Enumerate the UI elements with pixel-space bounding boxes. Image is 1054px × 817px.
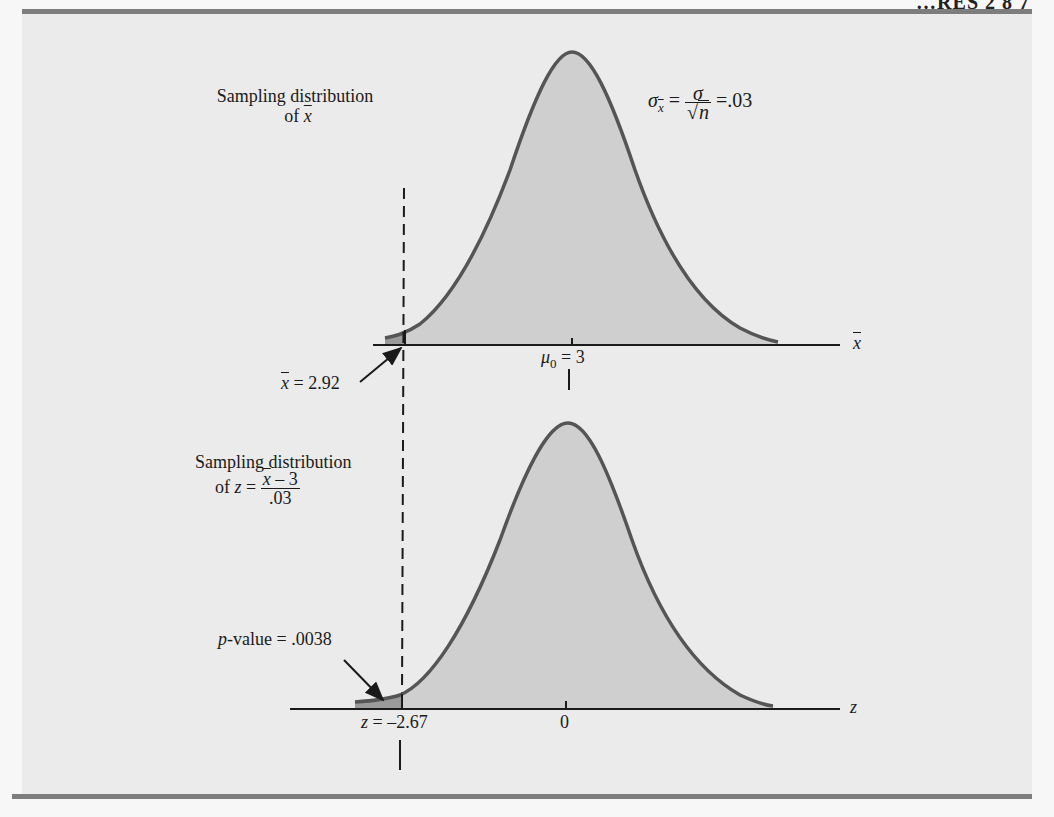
top-title-prefix: of xyxy=(284,106,304,126)
bottom-curve-fill xyxy=(355,423,773,709)
z-observed-value: = –2.67 xyxy=(368,712,428,732)
xbar-value: = 2.92 xyxy=(289,373,340,393)
dashed-connector-line xyxy=(402,188,404,700)
top-title-line1: Sampling distribution xyxy=(200,86,390,106)
pvalue-var: p xyxy=(218,629,227,649)
bottom-equals: = xyxy=(242,477,261,497)
z-denominator: .03 xyxy=(261,489,300,507)
figure-graphics xyxy=(0,0,1054,817)
sqrt-icon: √ xyxy=(687,101,698,123)
pvalue-arrow xyxy=(344,660,383,700)
sigma-subscript: x xyxy=(658,100,664,115)
bottom-axis-var: z xyxy=(850,697,857,717)
pvalue-label: p-value = .0038 xyxy=(218,629,332,649)
z-num-rest: – 3 xyxy=(271,469,298,489)
sigma-equals: = xyxy=(669,89,680,111)
z-num-var: x xyxy=(263,469,271,489)
xbar-label: x = 2.92 xyxy=(281,373,340,393)
z-observed-var: z xyxy=(361,712,368,732)
sqrt-var: n xyxy=(698,100,709,123)
bottom-title-prefix: of xyxy=(215,477,235,497)
bottom-z-var: z xyxy=(235,477,242,497)
sigma-denominator: √n xyxy=(685,103,711,121)
sigma-symbol: σ xyxy=(648,89,658,111)
xbar-var: x xyxy=(281,373,289,393)
top-title-var: x xyxy=(304,106,312,126)
pvalue-value: -value = .0038 xyxy=(227,629,332,649)
center-label: 0 xyxy=(560,712,569,732)
top-axis-var: x xyxy=(853,333,861,353)
z-numerator: x – 3 xyxy=(261,470,300,489)
mean-label: μ0 = 3 xyxy=(541,347,585,374)
z-fraction: x – 3 .03 xyxy=(261,470,300,507)
xbar-arrow xyxy=(360,348,401,382)
top-title: Sampling distribution of x xyxy=(200,86,390,126)
bottom-axis-label: z xyxy=(850,697,857,717)
sigma-value: =.03 xyxy=(716,89,752,111)
sigma-formula: σx = σ √n =.03 xyxy=(648,84,752,121)
bottom-title: Sampling distribution of z = x – 3 .03 xyxy=(195,452,352,507)
bottom-title-line2: of z = x – 3 .03 xyxy=(195,470,352,507)
mu-symbol: μ xyxy=(541,347,550,367)
top-title-line2: of x xyxy=(200,106,390,126)
center-value: 0 xyxy=(560,712,569,732)
sigma-fraction: σ √n xyxy=(685,84,711,121)
top-distribution-chart xyxy=(360,52,840,390)
top-axis-label: x xyxy=(853,333,861,353)
mean-value: = 3 xyxy=(557,347,585,367)
z-observed-label: z = –2.67 xyxy=(361,712,428,732)
